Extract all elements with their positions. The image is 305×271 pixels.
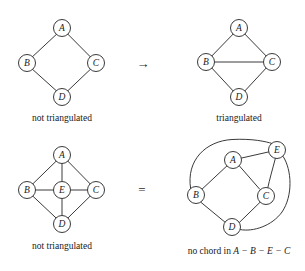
node-label-C: C	[93, 58, 100, 68]
edge-A-C	[68, 34, 90, 56]
edges-top-left	[33, 34, 91, 90]
node-label-D: D	[228, 222, 236, 232]
edge-A-B	[212, 34, 233, 56]
node-label-C: C	[263, 191, 270, 201]
edge-C-D	[68, 196, 90, 218]
node-label-B: B	[24, 58, 30, 68]
edge-A-B	[33, 161, 56, 184]
caption-top-left: not triangulated	[32, 113, 92, 123]
panel-bottom-left: A B E C D not triangul	[19, 147, 105, 252]
node-label-C: C	[269, 57, 276, 67]
caption-top-right: triangulated	[216, 113, 262, 123]
node-label-B: B	[203, 57, 209, 67]
edge-B-D	[33, 196, 56, 218]
node-E[interactable]: E	[269, 142, 286, 159]
edge-A-C	[245, 34, 266, 56]
node-label-D: D	[58, 219, 66, 229]
node-A[interactable]: A	[54, 20, 71, 37]
node-label-E: E	[58, 185, 65, 195]
node-D[interactable]: D	[224, 219, 241, 236]
node-label-A: A	[58, 150, 65, 160]
node-B[interactable]: B	[19, 182, 36, 199]
node-A[interactable]: A	[231, 20, 248, 37]
edge-A-C	[239, 166, 259, 189]
caption-prefix: no chord in	[188, 246, 234, 256]
panel-top-left: A B C D not triangulated	[19, 20, 105, 124]
node-label-D: D	[235, 92, 243, 102]
node-B[interactable]: B	[198, 54, 215, 71]
edge-E-C-arc	[268, 158, 276, 187]
edge-B-D	[212, 68, 233, 91]
node-D[interactable]: D	[231, 89, 248, 106]
edge-B-D	[33, 69, 57, 90]
arrow-right-icon: →	[137, 56, 150, 71]
graph-figure-svg: A B C D not triangulated →	[0, 0, 305, 271]
node-A[interactable]: A	[54, 147, 71, 164]
caption-cycle: A − B − E − C	[232, 246, 291, 256]
caption-bottom-right: no chord in A − B − E − C	[188, 246, 291, 256]
node-label-E: E	[273, 145, 280, 155]
node-C[interactable]: C	[88, 182, 105, 199]
panel-top-right: A B C D triangulated	[198, 20, 281, 124]
edge-A-E	[241, 152, 268, 158]
node-D[interactable]: D	[54, 216, 71, 233]
edge-A-B	[33, 34, 57, 56]
nodes-top-left: A B C D	[19, 20, 105, 106]
edges-top-right	[212, 34, 266, 91]
caption-bottom-left: not triangulated	[32, 241, 92, 251]
panel-bottom-right: A E B C D no	[188, 139, 292, 256]
edge-A-B	[202, 166, 227, 189]
node-B[interactable]: B	[188, 187, 205, 204]
edge-A-C	[68, 161, 90, 184]
node-D[interactable]: D	[54, 89, 71, 106]
node-A[interactable]: A	[225, 152, 242, 169]
edge-C-D	[239, 202, 260, 223]
nodes-bottom-right: A E B C D	[188, 142, 286, 236]
node-C[interactable]: C	[88, 55, 105, 72]
node-E[interactable]: E	[54, 182, 71, 199]
node-label-B: B	[24, 185, 30, 195]
edge-C-D	[245, 68, 266, 91]
node-C[interactable]: C	[258, 188, 275, 205]
node-label-D: D	[58, 92, 66, 102]
edge-B-D	[201, 202, 226, 223]
node-label-A: A	[58, 23, 65, 33]
edge-C-D	[68, 69, 90, 90]
equals-icon: =	[138, 182, 145, 197]
node-label-A: A	[229, 155, 236, 165]
node-label-A: A	[235, 23, 242, 33]
node-B[interactable]: B	[19, 55, 36, 72]
node-label-C: C	[93, 185, 100, 195]
node-label-B: B	[193, 190, 199, 200]
nodes-bottom-left: A B E C D	[19, 147, 105, 233]
figure-container: A B C D not triangulated →	[0, 0, 305, 271]
node-C[interactable]: C	[264, 54, 281, 71]
